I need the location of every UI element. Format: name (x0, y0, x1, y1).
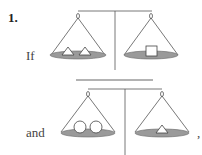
circle-icon (90, 121, 102, 133)
scale-1-right-hook (150, 14, 153, 19)
scale-1-left-hook (77, 14, 80, 19)
circle-icon (74, 121, 86, 133)
scale-1-left-pan (50, 51, 106, 59)
scale-2-left-hook (87, 92, 90, 97)
square-icon (146, 46, 157, 56)
balance-scale-1 (51, 11, 178, 70)
scale-2-left-pan (61, 129, 115, 137)
balance-scales-diagram (0, 0, 202, 155)
scale-2-right-hook (161, 92, 164, 97)
